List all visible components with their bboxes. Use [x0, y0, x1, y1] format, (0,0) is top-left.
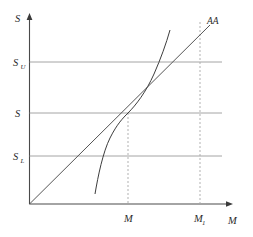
series-s-curve	[95, 30, 170, 194]
x-axis-label: M	[227, 215, 238, 226]
y-axis-label: S	[15, 13, 21, 24]
x-axis-arrowhead	[226, 201, 233, 207]
tick-label-m-one-subscript: 1	[202, 219, 205, 226]
tick-label-s-upper: S	[13, 57, 19, 68]
tick-label-m-equilibrium: M	[123, 213, 134, 224]
curve-label-aa: AA	[206, 16, 219, 26]
tick-label-s-lower-subscript: L	[20, 157, 25, 164]
tick-label-s-lower: S	[13, 151, 19, 162]
chart-svg: S S U S S L M M 1 M AA	[0, 0, 253, 237]
tick-label-s-upper-subscript: U	[21, 63, 27, 70]
series-aa-line	[30, 25, 211, 204]
tick-label-s-equilibrium: S	[15, 108, 21, 119]
y-axis-arrowhead	[27, 13, 33, 20]
chart-figure: S S U S S L M M 1 M AA	[0, 0, 253, 237]
